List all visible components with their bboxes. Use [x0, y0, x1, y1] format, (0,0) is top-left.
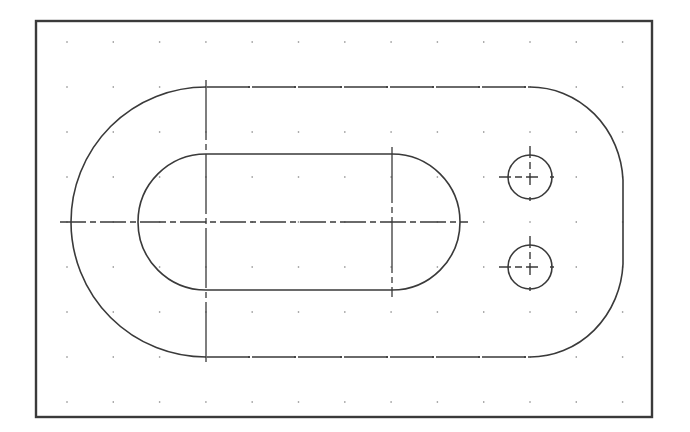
- cad-drawing-canvas: [0, 0, 690, 432]
- hole-1: [499, 146, 561, 208]
- cad-drawing: [0, 0, 690, 432]
- hole-2: [499, 236, 561, 298]
